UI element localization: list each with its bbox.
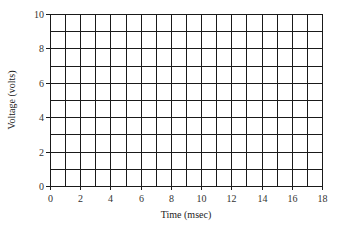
x-tick-label: 12 — [227, 193, 237, 204]
y-tick-label: 6 — [39, 78, 44, 89]
x-tick-label: 8 — [169, 193, 174, 204]
x-tick-label: 0 — [48, 193, 53, 204]
x-tick-label: 18 — [318, 193, 328, 204]
x-tick-label: 2 — [78, 193, 83, 204]
x-tick-label: 6 — [139, 193, 144, 204]
voltage-time-grid-chart: 024681012141618 0246810 Time (msec) Volt… — [0, 0, 341, 230]
x-axis-title: Time (msec) — [161, 209, 211, 221]
x-tick-label: 10 — [197, 193, 207, 204]
y-tick-label: 4 — [39, 112, 44, 123]
y-tick-label: 8 — [39, 43, 44, 54]
y-axis-ticks: 0246810 — [34, 9, 50, 192]
y-tick-label: 2 — [39, 147, 44, 158]
y-tick-label: 10 — [34, 9, 44, 20]
x-tick-label: 14 — [258, 193, 268, 204]
grid-lines — [50, 14, 323, 187]
y-tick-label: 0 — [39, 181, 44, 192]
x-tick-label: 4 — [108, 193, 113, 204]
x-axis-ticks: 024681012141618 — [48, 186, 328, 204]
x-tick-label: 16 — [288, 193, 298, 204]
y-axis-title: Voltage (volts) — [6, 71, 18, 130]
